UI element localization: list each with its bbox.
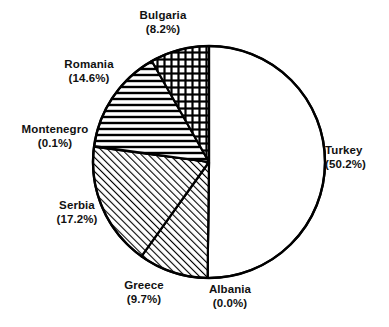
slice-label-serbia-pct: (17.2%) [27, 212, 127, 226]
slice-label-turkey-name: Turkey [325, 143, 389, 157]
slice-label-romania-name: Romania [37, 57, 141, 71]
slice-label-bulgaria: Bulgaria (8.2%) [111, 8, 215, 36]
slice-label-romania: Romania (14.6%) [37, 57, 141, 85]
pie-chart: Bulgaria (8.2%) Romania (14.6%) Monteneg… [0, 0, 389, 327]
slice-label-turkey-pct: (50.2%) [325, 157, 389, 171]
slice-label-albania: Albania (0.0%) [190, 282, 270, 310]
slice-label-greece-pct: (9.7%) [104, 292, 184, 306]
pie-slice-turkey[interactable] [208, 46, 326, 278]
slice-label-serbia-name: Serbia [27, 198, 127, 212]
slice-label-bulgaria-pct: (8.2%) [111, 22, 215, 36]
slice-label-montenegro-pct: (0.1%) [0, 136, 110, 150]
slice-label-montenegro-name: Montenegro [0, 122, 110, 136]
slice-label-bulgaria-name: Bulgaria [111, 8, 215, 22]
slice-label-greece-name: Greece [104, 278, 184, 292]
slice-label-serbia: Serbia (17.2%) [27, 198, 127, 226]
slice-label-turkey: Turkey (50.2%) [325, 143, 389, 171]
slice-label-albania-name: Albania [190, 282, 270, 296]
slice-label-romania-pct: (14.6%) [37, 71, 141, 85]
slice-label-greece: Greece (9.7%) [104, 278, 184, 306]
slice-label-montenegro: Montenegro (0.1%) [0, 122, 110, 150]
slice-label-albania-pct: (0.0%) [190, 296, 270, 310]
